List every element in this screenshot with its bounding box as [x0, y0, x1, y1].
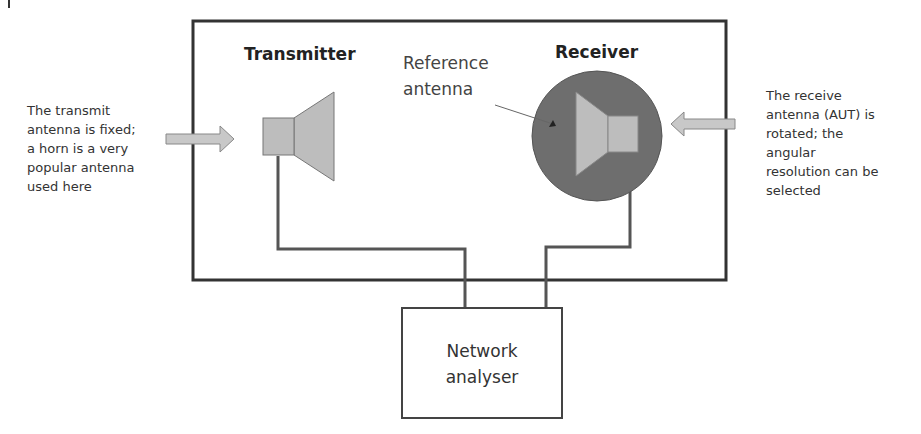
reference-line-2: antenna	[403, 76, 489, 102]
annotation-line: a horn is a very	[27, 139, 136, 158]
annotation-line: selected	[766, 181, 878, 200]
na-line-1: Network	[402, 338, 562, 364]
transmit-horn-antenna-icon	[263, 92, 334, 181]
annotation-line: The transmit	[27, 101, 136, 120]
transmit-annotation: The transmit antenna is fixed; a horn is…	[27, 101, 136, 196]
annotation-line: antenna (AUT) is	[766, 105, 878, 124]
annotation-line: rotated; the	[766, 124, 878, 143]
annotation-line: antenna is fixed;	[27, 120, 136, 139]
annotation-line: angular	[766, 143, 878, 162]
transmit-cable	[278, 156, 465, 308]
corner-mark	[8, 0, 10, 8]
annotation-line: popular antenna	[27, 158, 136, 177]
network-analyser-label: Network analyser	[402, 338, 562, 390]
transmitter-label: Transmitter	[244, 44, 356, 64]
reference-antenna-label: Reference antenna	[403, 50, 489, 102]
reference-line-1: Reference	[403, 50, 489, 76]
receive-annotation: The receive antenna (AUT) is rotated; th…	[766, 86, 878, 200]
right-arrow-icon	[166, 126, 234, 152]
annotation-line: The receive	[766, 86, 878, 105]
na-line-2: analyser	[402, 364, 562, 390]
receiver-label: Receiver	[555, 42, 638, 62]
annotation-line: used here	[27, 177, 136, 196]
annotation-line: resolution can be	[766, 162, 878, 181]
